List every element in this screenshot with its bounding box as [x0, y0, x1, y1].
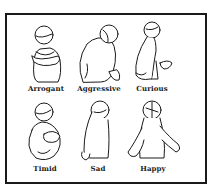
label-arrogant: Arrogant: [28, 84, 64, 93]
label-aggressive: Aggressive: [77, 84, 120, 93]
figure-sad: [78, 100, 114, 162]
figure-curious: [130, 21, 176, 83]
label-curious: Curious: [136, 84, 167, 93]
figure-happy: [122, 100, 184, 162]
figure-timid: [24, 100, 68, 162]
figure-aggressive: [75, 24, 125, 84]
figure-arrogant: [28, 22, 64, 84]
label-happy: Happy: [140, 164, 166, 173]
label-timid: Timid: [33, 164, 56, 173]
label-sad: Sad: [91, 164, 106, 173]
